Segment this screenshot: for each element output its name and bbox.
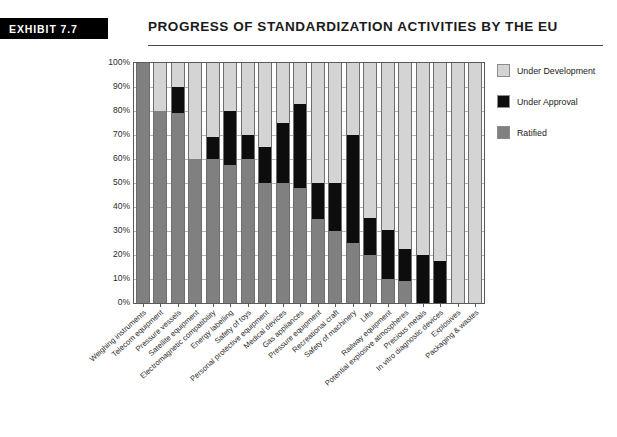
bar-segment	[312, 183, 324, 219]
legend-label: Under Development	[517, 66, 595, 76]
bar-slot	[467, 63, 485, 303]
legend-item[interactable]: Ratified	[497, 126, 617, 139]
legend-swatch	[497, 64, 510, 77]
bar-segment	[259, 147, 271, 183]
stacked-bar[interactable]	[276, 63, 290, 303]
bar-segment	[207, 63, 219, 137]
bar-segment	[399, 249, 411, 281]
bar-segment	[137, 63, 149, 303]
bar-group	[134, 63, 484, 303]
legend-item[interactable]: Under Development	[497, 64, 617, 77]
bar-segment	[294, 104, 306, 188]
bar-slot	[274, 63, 292, 303]
stacked-bar[interactable]	[398, 63, 412, 303]
bar-segment	[172, 87, 184, 113]
stacked-bar[interactable]	[468, 63, 482, 303]
bar-segment	[242, 63, 254, 135]
bar-slot	[257, 63, 275, 303]
stacked-bar[interactable]	[153, 63, 167, 303]
bar-segment	[417, 63, 429, 255]
y-axis-tick-label: 70%	[113, 129, 130, 139]
y-axis-tick-label: 40%	[113, 201, 130, 211]
bar-segment	[224, 165, 236, 303]
bar-segment	[294, 188, 306, 303]
bar-segment	[382, 63, 394, 230]
stacked-bar[interactable]	[346, 63, 360, 303]
bar-segment	[382, 230, 394, 279]
stacked-bar[interactable]	[363, 63, 377, 303]
y-axis-tick-label: 90%	[113, 81, 130, 91]
bar-slot	[397, 63, 415, 303]
header-divider	[148, 45, 603, 46]
bar-segment	[242, 159, 254, 303]
plot-frame	[133, 62, 485, 304]
exhibit-badge: EXHIBIT 7.7	[0, 18, 108, 39]
stacked-bar[interactable]	[328, 63, 342, 303]
stacked-bar[interactable]	[416, 63, 430, 303]
bar-segment	[277, 123, 289, 183]
bar-segment	[312, 219, 324, 303]
legend-item[interactable]: Under Approval	[497, 95, 617, 108]
bar-slot	[187, 63, 205, 303]
bar-segment	[347, 135, 359, 243]
bar-segment	[329, 63, 341, 183]
bar-segment	[452, 63, 464, 303]
chart-area: 0%10%20%30%40%50%60%70%80%90%100% Weighi…	[0, 52, 617, 437]
stacked-bar[interactable]	[206, 63, 220, 303]
bar-segment	[434, 63, 446, 261]
stacked-bar[interactable]	[381, 63, 395, 303]
bar-slot	[222, 63, 240, 303]
bar-slot	[204, 63, 222, 303]
bar-slot	[344, 63, 362, 303]
legend-label: Ratified	[517, 128, 547, 138]
bar-slot	[309, 63, 327, 303]
bar-segment	[329, 231, 341, 303]
legend-swatch	[497, 126, 510, 139]
bar-segment	[417, 255, 429, 303]
bar-slot	[152, 63, 170, 303]
bar-segment	[277, 63, 289, 123]
exhibit-header: EXHIBIT 7.7 PROGRESS OF STANDARDIZATION …	[0, 18, 617, 48]
bar-segment	[277, 183, 289, 303]
bar-segment	[172, 63, 184, 87]
stacked-bar[interactable]	[433, 63, 447, 303]
stacked-bar[interactable]	[451, 63, 465, 303]
bar-slot	[379, 63, 397, 303]
stacked-bar[interactable]	[188, 63, 202, 303]
stacked-bar[interactable]	[171, 63, 185, 303]
bar-segment	[154, 111, 166, 303]
chart-legend: Under DevelopmentUnder ApprovalRatified	[497, 64, 617, 157]
stacked-bar[interactable]	[223, 63, 237, 303]
bar-slot	[432, 63, 450, 303]
legend-label: Under Approval	[517, 97, 578, 107]
bar-segment	[434, 261, 446, 303]
stacked-bar[interactable]	[311, 63, 325, 303]
bar-slot	[169, 63, 187, 303]
bar-segment	[224, 111, 236, 165]
bar-segment	[329, 183, 341, 231]
x-axis: Weighing instrumentsTelecom equipmentPre…	[133, 304, 483, 424]
bar-slot	[362, 63, 380, 303]
bar-slot	[449, 63, 467, 303]
y-axis-tick-label: 80%	[113, 105, 130, 115]
y-axis-tick-label: 20%	[113, 249, 130, 259]
page-title: PROGRESS OF STANDARDIZATION ACTIVITIES B…	[148, 19, 558, 34]
bar-segment	[364, 63, 376, 218]
y-axis-tick-label: 50%	[113, 177, 130, 187]
y-axis-tick-label: 10%	[113, 273, 130, 283]
stacked-bar[interactable]	[293, 63, 307, 303]
y-axis: 0%10%20%30%40%50%60%70%80%90%100%	[98, 62, 130, 302]
stacked-bar[interactable]	[136, 63, 150, 303]
bar-segment	[469, 63, 481, 303]
bar-slot	[134, 63, 152, 303]
stacked-bar[interactable]	[258, 63, 272, 303]
legend-swatch	[497, 95, 510, 108]
bar-segment	[154, 63, 166, 111]
bar-slot	[414, 63, 432, 303]
y-axis-tick-label: 60%	[113, 153, 130, 163]
bar-segment	[399, 63, 411, 249]
bar-slot	[292, 63, 310, 303]
stacked-bar[interactable]	[241, 63, 255, 303]
bar-segment	[294, 63, 306, 104]
bar-segment	[189, 63, 201, 159]
